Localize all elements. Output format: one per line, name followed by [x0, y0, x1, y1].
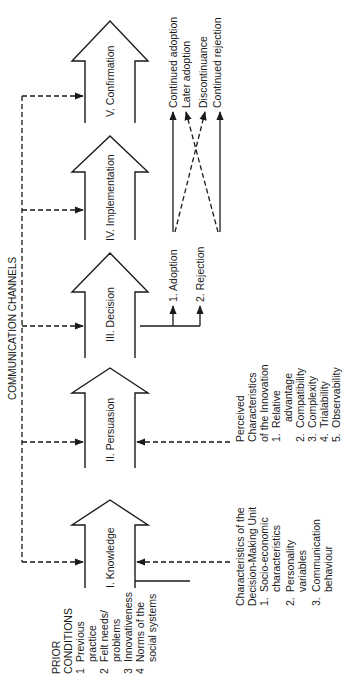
svg-text:4: 4: [134, 668, 146, 674]
later-adoption-arrow: [186, 112, 218, 232]
svg-text:Relative: Relative: [270, 390, 282, 428]
svg-text:1.: 1.: [258, 597, 270, 606]
svg-text:practice: practice: [86, 625, 98, 662]
svg-text:5.: 5.: [330, 433, 342, 442]
svg-text:PRIOR: PRIOR: [50, 640, 62, 674]
svg-text:characteristics: characteristics: [270, 525, 282, 592]
svg-text:Trialability: Trialability: [318, 380, 330, 428]
outcome-continued-rejection: Continued rejection: [211, 17, 223, 108]
svg-text:Observability: Observability: [330, 367, 342, 428]
outcome-discontinuance: Discontinuance: [197, 36, 209, 108]
outcome-adoption: 1. Adoption: [167, 249, 179, 302]
svg-text:Characteristics of the: Characteristics of the: [234, 507, 246, 606]
stage-label-decision: III. Decision: [104, 287, 116, 342]
svg-text:2.: 2.: [294, 433, 306, 442]
svg-text:2.: 2.: [284, 597, 296, 606]
svg-text:problems: problems: [110, 619, 122, 662]
svg-text:advantage: advantage: [282, 373, 294, 422]
svg-text:4.: 4.: [318, 433, 330, 442]
innovation-decision-diagram: I. Knowledge II. Persuasion III. Decisio…: [0, 0, 359, 679]
svg-text:Socio-economic: Socio-economic: [258, 517, 270, 592]
svg-text:Norms of the: Norms of the: [134, 602, 146, 662]
decision-making-unit: Characteristics of the Decision-Making U…: [234, 507, 334, 606]
svg-text:Characteristics: Characteristics: [246, 373, 258, 442]
stage-label-knowledge: I. Knowledge: [104, 527, 116, 588]
discontinuance-arrow: [175, 112, 205, 232]
svg-text:Felt needs/: Felt needs/: [98, 610, 110, 662]
outcome-continued-adoption: Continued adoption: [167, 17, 179, 108]
stage-label-implementation: IV. Implementation: [104, 154, 116, 241]
svg-text:Personality: Personality: [284, 539, 296, 592]
stage-label-confirmation: V. Confirmation: [104, 45, 116, 117]
prior-conditions: PRIOR CONDITIONS 1 Previous practice 2 F…: [50, 592, 158, 674]
svg-text:Previous: Previous: [74, 621, 86, 662]
svg-text:Perceived: Perceived: [234, 395, 246, 442]
outcome-rejection: 2. Rejection: [194, 246, 206, 302]
svg-text:3: 3: [122, 668, 134, 674]
outcome-later-adoption: Later adoption: [180, 41, 192, 108]
svg-text:variables: variables: [296, 550, 308, 592]
stage-label-persuasion: II. Persuasion: [104, 398, 116, 462]
svg-text:Decision-Making Unit: Decision-Making Unit: [246, 507, 258, 606]
communication-channels-label: COMMUNICATION CHANNELS: [7, 257, 18, 400]
innovation-characteristics: Perceived Characteristics of the Innovat…: [234, 364, 342, 442]
svg-text:Complexity: Complexity: [306, 375, 318, 428]
svg-text:social systems: social systems: [146, 594, 158, 662]
svg-text:of the Innovation: of the Innovation: [258, 364, 270, 442]
svg-text:2: 2: [98, 668, 110, 674]
svg-text:Communication: Communication: [310, 519, 322, 592]
svg-text:behaviour: behaviour: [322, 545, 334, 592]
svg-text:1: 1: [74, 668, 86, 674]
svg-text:CONDITIONS: CONDITIONS: [62, 608, 74, 674]
svg-text:3.: 3.: [310, 597, 322, 606]
svg-text:Compatibility: Compatibility: [294, 367, 306, 428]
svg-text:3.: 3.: [306, 433, 318, 442]
svg-text:1.: 1.: [270, 433, 282, 442]
svg-text:Innovativeness: Innovativeness: [122, 592, 134, 662]
